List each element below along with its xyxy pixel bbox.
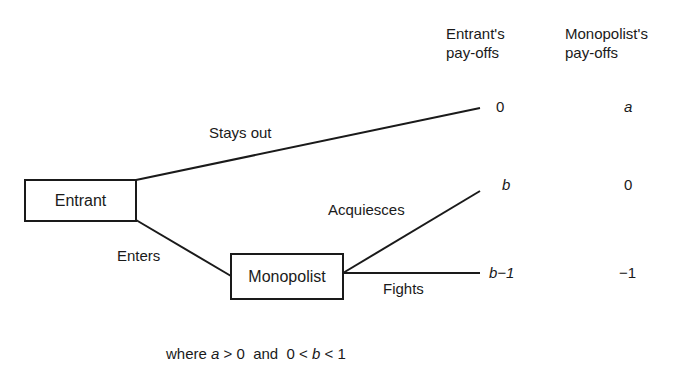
entrant-node-label: Entrant <box>55 192 107 210</box>
footer-text: < 1 <box>320 345 345 362</box>
payoff-entrant-fights: b−1 <box>489 264 514 281</box>
monopolist-node-label: Monopolist <box>248 268 325 286</box>
monopolist-payoffs-header: Monopolist's pay-offs <box>565 24 648 62</box>
payoff-monopolist-stays-out: a <box>624 98 632 115</box>
payoff-monopolist-fights: −1 <box>619 264 636 281</box>
payoff-entrant-stays-out: 0 <box>496 98 504 115</box>
header-line: Monopolist's <box>565 24 648 43</box>
parameter-condition: where a > 0 and 0 < b < 1 <box>166 345 346 362</box>
payoff-monopolist-acquiesces: 0 <box>624 176 632 193</box>
branch-label-acquiesces: Acquiesces <box>328 201 405 218</box>
branch-label-stays-out: Stays out <box>209 124 272 141</box>
footer-text: where <box>166 345 211 362</box>
edge-stays-out <box>136 108 480 180</box>
entrant-payoffs-header: Entrant's pay-offs <box>446 24 505 62</box>
entrant-node: Entrant <box>24 179 137 222</box>
monopolist-node: Monopolist <box>230 253 344 300</box>
footer-text: > 0 and 0 < <box>219 345 312 362</box>
branch-label-fights: Fights <box>383 280 424 297</box>
header-line: pay-offs <box>446 43 505 62</box>
header-line: pay-offs <box>565 43 648 62</box>
payoff-entrant-acquiesces: b <box>502 176 510 193</box>
branch-label-enters: Enters <box>117 247 160 264</box>
header-line: Entrant's <box>446 24 505 43</box>
